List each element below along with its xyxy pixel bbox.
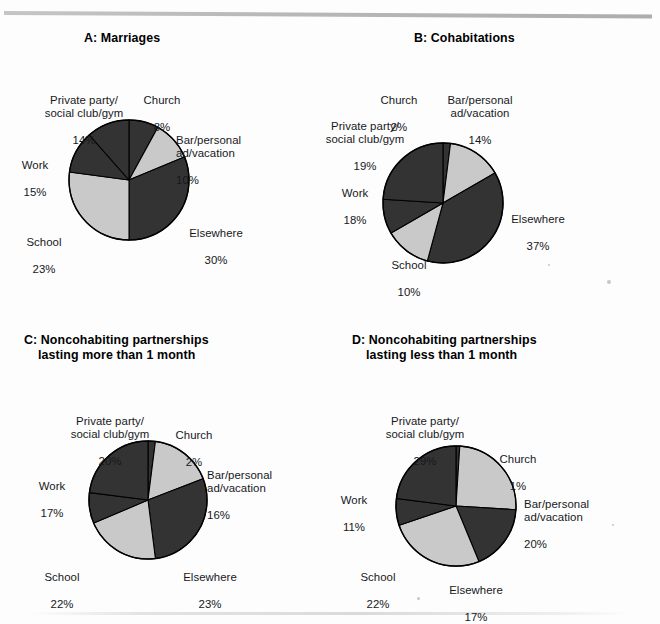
panel-d-label-work-text: Work bbox=[341, 494, 368, 506]
panel-a-value-church: 8% bbox=[154, 121, 171, 133]
panel-a-label-private-party: Private party/ social club/gym 14% bbox=[22, 80, 146, 148]
panel-a-label-school: School 23% bbox=[17, 222, 71, 276]
panel-b-title: B: Cohabitations bbox=[414, 31, 660, 46]
panel-a-label-bar: Bar/personal ad/vacation 10% bbox=[176, 120, 271, 188]
panel-b-value-school: 10% bbox=[398, 286, 421, 298]
panel-b-label-school: School 10% bbox=[382, 245, 436, 299]
panel-d-label-school: School 22% bbox=[351, 557, 405, 611]
panel-a-value-elsewhere: 30% bbox=[205, 254, 228, 266]
panel-d-label-elsewhere: Elsewhere 17% bbox=[438, 570, 514, 624]
panel-d-label-private-party-text: Private party/ social club/gym bbox=[386, 415, 465, 441]
panel-b-label-private-party: Private party/ social club/gym 19% bbox=[306, 106, 424, 174]
panel-c-value-bar: 16% bbox=[207, 509, 230, 521]
panel-c-label-bar: Bar/personal ad/vacation 16% bbox=[207, 455, 307, 523]
panel-c-label-elsewhere: Elsewhere 23% bbox=[172, 557, 248, 611]
panel-d-value-elsewhere: 17% bbox=[465, 611, 488, 623]
panel-c-label-work: Work 17% bbox=[26, 466, 78, 520]
panel-c-noncohabiting-more-than-1-month: C: Noncohabiting partnershipslasting mor… bbox=[0, 308, 330, 616]
panel-d-value-private-party: 29% bbox=[414, 455, 437, 467]
panel-c-label-church-text: Church bbox=[175, 429, 212, 441]
panel-b-label-bar: Bar/personal ad/vacation 14% bbox=[430, 80, 530, 148]
panel-a-marriages: A: Marriages Private party/ social club/… bbox=[0, 0, 330, 308]
panel-d-title-line1: D: Noncohabiting partnerships bbox=[352, 333, 537, 347]
panel-d-label-work: Work 11% bbox=[328, 480, 380, 534]
panel-c-title-line2: lasting more than 1 month bbox=[24, 348, 195, 363]
panel-d-title-line2: lasting less than 1 month bbox=[352, 348, 517, 363]
panel-b-label-elsewhere-text: Elsewhere bbox=[511, 213, 565, 225]
panel-c-title: C: Noncohabiting partnershipslasting mor… bbox=[24, 333, 314, 363]
panel-c-title-line1: C: Noncohabiting partnerships bbox=[24, 333, 209, 347]
panel-b-label-private-party-text: Private party/ social club/gym bbox=[326, 120, 405, 146]
panel-c-value-work: 17% bbox=[41, 507, 64, 519]
panel-d-label-bar: Bar/personal ad/vacation 20% bbox=[524, 484, 624, 552]
panel-d-value-school: 22% bbox=[367, 598, 390, 610]
panel-d-value-bar: 20% bbox=[524, 538, 547, 550]
panel-d-label-private-party: Private party/ social club/gym 29% bbox=[363, 401, 487, 469]
panel-d-title: D: Noncohabiting partnershipslasting les… bbox=[352, 333, 648, 363]
panel-d-label-bar-text: Bar/personal ad/vacation bbox=[524, 498, 589, 524]
panel-d-value-work: 11% bbox=[343, 521, 365, 533]
panel-b-value-private-party: 19% bbox=[354, 160, 377, 172]
panel-c-value-church: 2% bbox=[186, 456, 203, 468]
panel-c-label-school: School 22% bbox=[35, 557, 89, 611]
panel-c-label-work-text: Work bbox=[39, 480, 66, 492]
panel-c-value-private-party: 20% bbox=[99, 455, 122, 467]
panel-c-label-school-text: School bbox=[44, 571, 79, 583]
panel-d-label-school-text: School bbox=[360, 571, 395, 583]
panel-b-label-church-text: Church bbox=[380, 94, 417, 106]
panel-a-value-school: 23% bbox=[33, 263, 56, 275]
panel-d-label-elsewhere-text: Elsewhere bbox=[449, 584, 503, 596]
panel-d-noncohabiting-less-than-1-month: D: Noncohabiting partnershipslasting les… bbox=[330, 308, 660, 616]
panel-a-label-elsewhere: Elsewhere 30% bbox=[178, 213, 254, 267]
panel-a-label-work: Work 15% bbox=[9, 145, 61, 199]
panel-a-label-work-text: Work bbox=[22, 159, 49, 171]
panel-b-cohabitations: B: Cohabitations Church 2% bbox=[330, 0, 660, 308]
panel-a-label-private-party-text: Private party/ social club/gym bbox=[45, 94, 124, 120]
panel-b-label-work: Work 18% bbox=[329, 173, 381, 227]
panel-a-value-private-party: 14% bbox=[73, 134, 96, 146]
panel-b-label-elsewhere: Elsewhere 37% bbox=[500, 199, 576, 253]
panel-c-value-elsewhere: 23% bbox=[199, 598, 222, 610]
panel-a-label-elsewhere-text: Elsewhere bbox=[189, 227, 243, 239]
panel-c-value-school: 22% bbox=[51, 598, 74, 610]
panel-b-value-elsewhere: 37% bbox=[527, 240, 550, 252]
panel-b-value-bar: 14% bbox=[469, 134, 492, 146]
panel-b-value-work: 18% bbox=[344, 214, 367, 226]
panel-a-label-school-text: School bbox=[26, 236, 61, 248]
pie-a-slice-school[interactable] bbox=[69, 172, 129, 240]
panel-c-label-private-party: Private party/ social club/gym 20% bbox=[48, 401, 172, 469]
panel-a-value-bar: 10% bbox=[176, 174, 199, 186]
panel-d-label-church-text: Church bbox=[499, 453, 536, 465]
panel-a-label-church-text: Church bbox=[143, 94, 180, 106]
panel-b-label-bar-text: Bar/personal ad/vacation bbox=[447, 94, 512, 120]
panel-b-label-school-text: School bbox=[391, 259, 426, 271]
panel-c-label-bar-text: Bar/personal ad/vacation bbox=[207, 469, 272, 495]
panel-c-label-elsewhere-text: Elsewhere bbox=[183, 571, 237, 583]
panel-a-title: A: Marriages bbox=[84, 31, 324, 46]
panel-b-label-work-text: Work bbox=[342, 187, 369, 199]
panel-a-label-bar-text: Bar/personal ad/vacation bbox=[176, 134, 241, 160]
panel-a-value-work: 15% bbox=[24, 186, 47, 198]
panel-c-label-private-party-text: Private party/ social club/gym bbox=[71, 415, 150, 441]
